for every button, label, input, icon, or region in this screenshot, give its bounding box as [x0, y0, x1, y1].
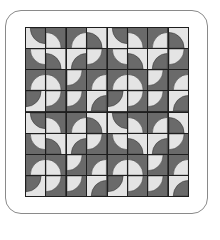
quarter-circle-icon — [87, 134, 106, 154]
quarter-circle-icon — [148, 28, 167, 48]
quilt-tile — [148, 176, 167, 196]
quarter-circle-icon — [67, 134, 86, 154]
quilt-tile — [26, 134, 45, 154]
quarter-circle-icon — [128, 49, 147, 69]
quilt-tile — [26, 113, 45, 133]
quarter-circle-icon — [46, 113, 65, 133]
quarter-circle-icon — [108, 49, 127, 69]
quarter-circle-icon — [108, 155, 127, 175]
quarter-circle-icon — [108, 134, 127, 154]
quarter-circle-icon — [67, 155, 86, 175]
quilt-tile — [67, 91, 86, 111]
quarter-circle-icon — [169, 70, 188, 90]
quilt-tile — [67, 49, 86, 69]
quilt-tile — [108, 155, 127, 175]
quarter-circle-icon — [46, 28, 65, 48]
quilt-tile — [148, 28, 167, 48]
quarter-circle-icon — [46, 70, 65, 90]
quarter-circle-icon — [128, 134, 147, 154]
quilt-tile — [169, 28, 188, 48]
quilt-tile — [108, 49, 127, 69]
quilt-tile — [26, 91, 45, 111]
quarter-circle-icon — [26, 155, 45, 175]
quilt-tile — [87, 155, 106, 175]
quilt-tile — [26, 28, 45, 48]
quarter-circle-icon — [169, 155, 188, 175]
quilt-tile — [148, 113, 167, 133]
quarter-circle-icon — [67, 49, 86, 69]
quarter-circle-icon — [26, 113, 45, 133]
quarter-circle-icon — [128, 176, 147, 196]
quilt-tile — [46, 28, 65, 48]
quilt-tile — [128, 49, 147, 69]
quarter-circle-icon — [169, 134, 188, 154]
quilt-tile — [26, 176, 45, 196]
quilt-tile — [46, 113, 65, 133]
quilt-tile — [67, 70, 86, 90]
quilt-tile — [108, 176, 127, 196]
quilt-tile — [67, 28, 86, 48]
quarter-circle-icon — [108, 113, 127, 133]
quilt-tile — [26, 49, 45, 69]
quilt-tile — [128, 91, 147, 111]
quarter-circle-icon — [128, 28, 147, 48]
quilt-tile — [108, 91, 127, 111]
quarter-circle-icon — [87, 28, 106, 48]
quarter-circle-icon — [87, 49, 106, 69]
quilt-tile — [128, 113, 147, 133]
quarter-circle-icon — [46, 155, 65, 175]
quilt-tile — [128, 155, 147, 175]
quilt-tile — [169, 176, 188, 196]
quarter-circle-icon — [87, 176, 106, 196]
quilt-pattern-grid — [25, 27, 189, 197]
quilt-tile — [46, 176, 65, 196]
quarter-circle-icon — [87, 155, 106, 175]
quarter-circle-icon — [46, 176, 65, 196]
quilt-tile — [148, 134, 167, 154]
quarter-circle-icon — [67, 28, 86, 48]
quilt-tile — [128, 70, 147, 90]
quilt-tile — [108, 113, 127, 133]
quarter-circle-icon — [169, 28, 188, 48]
quilt-tile — [67, 113, 86, 133]
quarter-circle-icon — [148, 91, 167, 111]
quilt-tile — [148, 155, 167, 175]
quilt-tile — [148, 91, 167, 111]
quilt-tile — [67, 134, 86, 154]
quarter-circle-icon — [169, 91, 188, 111]
quilt-tile — [128, 134, 147, 154]
quarter-circle-icon — [87, 91, 106, 111]
quilt-tile — [46, 49, 65, 69]
quarter-circle-icon — [128, 70, 147, 90]
quarter-circle-icon — [46, 91, 65, 111]
quarter-circle-icon — [148, 155, 167, 175]
quarter-circle-icon — [148, 49, 167, 69]
quarter-circle-icon — [169, 113, 188, 133]
quilt-tile — [67, 176, 86, 196]
quilt-tile — [128, 176, 147, 196]
quarter-circle-icon — [67, 91, 86, 111]
quarter-circle-icon — [108, 176, 127, 196]
quilt-tile — [87, 91, 106, 111]
quilt-tile — [87, 113, 106, 133]
quarter-circle-icon — [128, 155, 147, 175]
quilt-tile — [46, 155, 65, 175]
quilt-tile — [148, 70, 167, 90]
quarter-circle-icon — [169, 49, 188, 69]
quarter-circle-icon — [169, 176, 188, 196]
quarter-circle-icon — [26, 49, 45, 69]
quilt-tile — [87, 49, 106, 69]
quarter-circle-icon — [148, 113, 167, 133]
quilt-tile — [108, 134, 127, 154]
quilt-tile — [108, 28, 127, 48]
quilt-tile — [169, 49, 188, 69]
quarter-circle-icon — [67, 113, 86, 133]
quilt-tile — [67, 155, 86, 175]
quilt-tile — [26, 70, 45, 90]
quilt-tile — [169, 155, 188, 175]
quilt-tile — [87, 70, 106, 90]
quarter-circle-icon — [26, 134, 45, 154]
quilt-tile — [169, 70, 188, 90]
quilt-tile — [87, 134, 106, 154]
quarter-circle-icon — [26, 91, 45, 111]
